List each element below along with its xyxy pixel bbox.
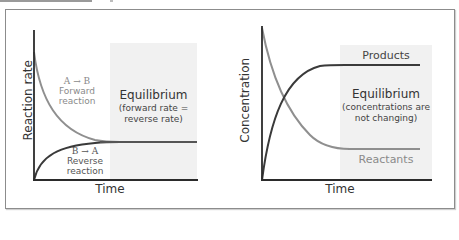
left-y-axis-label: Reaction rate [22,55,35,145]
reactants-label: Reactants [340,154,432,166]
right-equilibrium-line2: not changing) [340,114,432,123]
left-equilibrium-title: Equilibrium [110,89,197,102]
right-y-axis-label: Concentration [239,55,252,145]
products-curve [262,65,345,180]
right-x-axis-label: Time [325,183,355,196]
right-equilibrium-title: Equilibrium [340,88,432,101]
forward-label-line2: reaction [52,97,102,106]
right-equilibrium-line1: (concentrations are [336,103,436,112]
products-label: Products [340,50,432,62]
reverse-label-line2: reaction [60,167,110,176]
left-equilibrium-line1: (forward rate = [110,104,197,113]
left-x-axis-label: Time [95,183,125,196]
reactants-curve [262,28,350,149]
left-equilibrium-line2: reverse rate) [110,115,197,124]
